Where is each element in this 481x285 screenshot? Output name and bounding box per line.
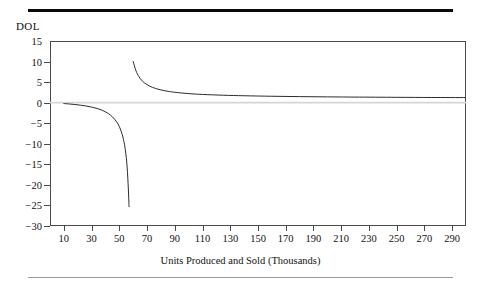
- x-tick-label: 50: [104, 233, 134, 244]
- y-tick-label: −15: [8, 159, 42, 170]
- y-tick-label: 0: [8, 97, 42, 108]
- x-tick-label: 110: [188, 233, 218, 244]
- x-tick-label: 290: [437, 233, 467, 244]
- x-tick-label: 270: [409, 233, 439, 244]
- y-axis-title: DOL: [16, 20, 40, 32]
- top-rule: [28, 9, 453, 12]
- y-tick-mark: [44, 226, 50, 227]
- x-tick-label: 170: [271, 233, 301, 244]
- x-tick-mark: [203, 226, 204, 231]
- y-tick-label: 5: [8, 77, 42, 88]
- x-tick-label: 150: [243, 233, 273, 244]
- x-tick-mark: [119, 226, 120, 231]
- y-tick-label: −20: [8, 179, 42, 190]
- x-tick-mark: [369, 226, 370, 231]
- x-tick-label: 90: [160, 233, 190, 244]
- figure-container: DOL 151050−5−10−15−20−25−30 103050709011…: [0, 0, 481, 285]
- chart-curves: [50, 41, 466, 226]
- series-dol-above-breakeven: [133, 62, 466, 98]
- x-axis-title: Units Produced and Sold (Thousands): [0, 255, 481, 266]
- x-tick-label: 230: [354, 233, 384, 244]
- x-tick-mark: [397, 226, 398, 231]
- x-tick-mark: [175, 226, 176, 231]
- x-tick-label: 70: [132, 233, 162, 244]
- x-tick-mark: [341, 226, 342, 231]
- plot-area: [50, 41, 466, 226]
- x-tick-label: 10: [49, 233, 79, 244]
- x-tick-label: 250: [382, 233, 412, 244]
- y-tick-label: −25: [8, 200, 42, 211]
- x-tick-mark: [64, 226, 65, 231]
- x-tick-mark: [313, 226, 314, 231]
- x-tick-mark: [230, 226, 231, 231]
- x-tick-mark: [424, 226, 425, 231]
- y-tick-label: −30: [8, 221, 42, 232]
- x-tick-mark: [452, 226, 453, 231]
- bottom-rule: [28, 277, 453, 278]
- x-tick-mark: [92, 226, 93, 231]
- x-tick-mark: [286, 226, 287, 231]
- x-tick-label: 30: [77, 233, 107, 244]
- y-tick-label: 15: [8, 36, 42, 47]
- x-tick-label: 190: [298, 233, 328, 244]
- y-tick-label: 10: [8, 56, 42, 67]
- x-tick-mark: [147, 226, 148, 231]
- x-tick-mark: [258, 226, 259, 231]
- x-tick-label: 210: [326, 233, 356, 244]
- y-tick-label: −5: [8, 118, 42, 129]
- y-tick-label: −10: [8, 138, 42, 149]
- series-dol-below-breakeven: [64, 104, 129, 207]
- x-tick-label: 130: [215, 233, 245, 244]
